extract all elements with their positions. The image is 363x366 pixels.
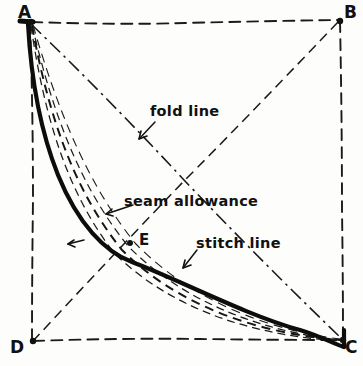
annotation-seam-allowance: seam allowance: [124, 193, 258, 209]
cut-line-curve: [28, 24, 344, 347]
point-dot-E: [127, 240, 133, 246]
pattern-diagram-canvas: A B C D E fold line seam allowance stitc…: [0, 0, 363, 366]
point-label-E: E: [139, 231, 149, 249]
edge-BC: [340, 21, 343, 339]
corner-label-C: C: [345, 337, 358, 357]
corner-label-B: B: [344, 2, 357, 22]
corner-dot-D: [30, 338, 36, 344]
diagram-drawing: [0, 0, 363, 366]
annotation-fold-line: fold line: [150, 103, 219, 119]
corner-label-A: A: [18, 2, 32, 22]
annotation-stitch-line: stitch line: [196, 235, 281, 251]
corner-label-D: D: [10, 337, 25, 357]
edge-AB: [31, 20, 339, 24]
corner-dot-B: [337, 18, 343, 24]
edge-DC: [33, 339, 342, 341]
